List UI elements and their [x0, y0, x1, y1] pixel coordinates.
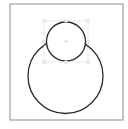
resize-handle-top-right[interactable]: [87, 20, 89, 22]
resize-handle-middle-left[interactable]: [43, 40, 45, 42]
resize-handle-top-left[interactable]: [43, 20, 45, 22]
resize-handle-bottom-left[interactable]: [43, 61, 45, 63]
resize-handle-middle-right[interactable]: [87, 40, 89, 42]
resize-handle-bottom-right[interactable]: [87, 61, 89, 63]
resize-handle-bottom-center[interactable]: [65, 61, 67, 63]
drawing-canvas[interactable]: [0, 0, 128, 129]
resize-handle-top-center[interactable]: [65, 20, 67, 22]
